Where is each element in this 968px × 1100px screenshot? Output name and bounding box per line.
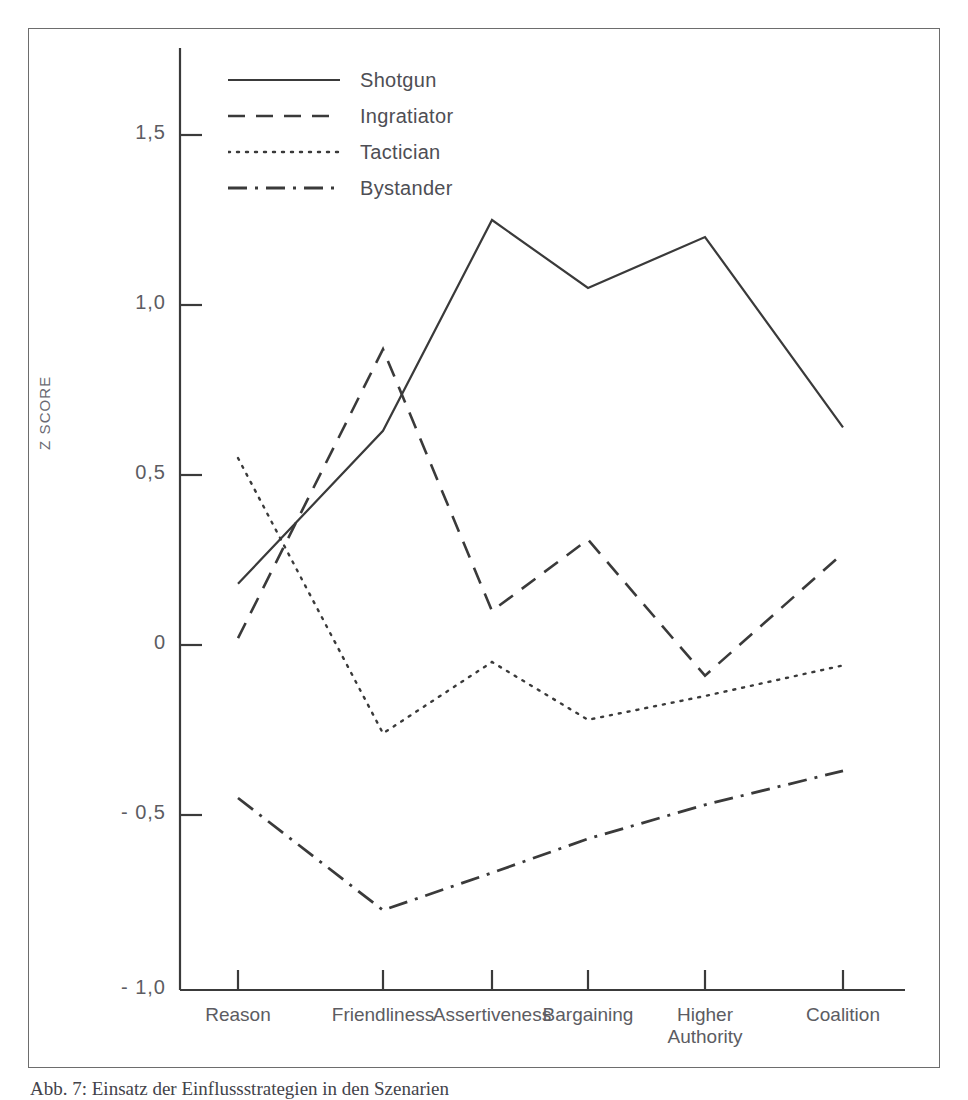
legend-label: Bystander	[360, 177, 453, 200]
x-tick-label: Bargaining	[543, 1004, 634, 1026]
legend-item-tactician: Tactician	[228, 134, 528, 170]
legend-item-ingratiator: Ingratiator	[228, 98, 528, 134]
chart-legend: ShotgunIngratiatorTacticianBystander	[228, 62, 528, 206]
figure-root: Z SCORE 1,51,00,50- 0,5- 1,0 ReasonFrien…	[0, 0, 968, 1100]
x-tick-label: Friendliness	[332, 1004, 434, 1026]
line-dashed-icon	[228, 109, 340, 123]
figure-caption: Abb. 7: Einsatz der Einflussstrategien i…	[30, 1078, 930, 1100]
line-dotted-icon	[228, 145, 340, 159]
legend-item-shotgun: Shotgun	[228, 62, 528, 98]
line-dashdot-icon	[228, 181, 340, 195]
legend-item-bystander: Bystander	[228, 170, 528, 206]
legend-label: Tactician	[360, 141, 441, 164]
legend-label: Shotgun	[360, 69, 437, 92]
line-solid-icon	[228, 73, 340, 87]
x-tick-label: Reason	[205, 1004, 271, 1026]
legend-label: Ingratiator	[360, 105, 453, 128]
x-tick-label: Assertiveness	[433, 1004, 551, 1026]
x-tick-label: Coalition	[806, 1004, 880, 1026]
x-tick-label: Higher Authority	[668, 1004, 743, 1048]
